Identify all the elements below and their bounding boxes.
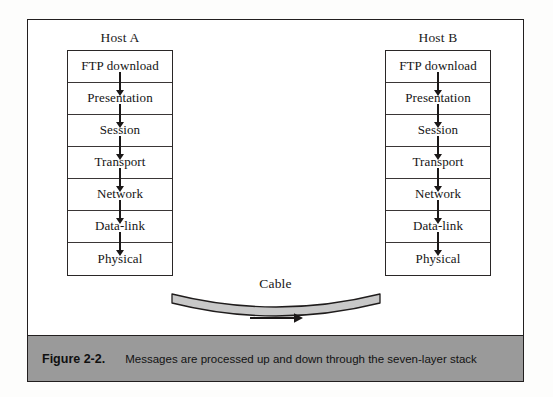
- diagram-canvas: Host A FTP download Presentation Session…: [28, 20, 523, 335]
- cable-label: Cable: [28, 276, 523, 292]
- figure-caption-text: Messages are processed up and down throu…: [125, 353, 477, 365]
- down-arrow-icon: [437, 72, 439, 91]
- down-arrow-icon: [119, 136, 121, 155]
- layer-label: FTP download: [81, 59, 159, 72]
- host-b-layer-ftp-download: FTP download: [386, 51, 490, 83]
- down-arrow-icon: [119, 200, 121, 219]
- host-a-layer-stack: FTP download Presentation Session Transp…: [67, 50, 173, 276]
- down-arrow-icon: [437, 200, 439, 219]
- figure-frame: Host A FTP download Presentation Session…: [27, 19, 524, 382]
- down-arrow-icon: [119, 104, 121, 123]
- host-b-column: Host B FTP download Presentation Session…: [385, 28, 491, 276]
- down-arrow-icon: [119, 72, 121, 91]
- host-a-layer-ftp-download: FTP download: [68, 51, 172, 83]
- down-arrow-icon: [119, 232, 121, 251]
- host-a-label: Host A: [67, 28, 173, 50]
- down-arrow-icon: [119, 168, 121, 187]
- down-arrow-icon: [437, 168, 439, 187]
- figure-number: Figure 2-2.: [42, 352, 105, 366]
- host-b-label: Host B: [385, 28, 491, 50]
- down-arrow-icon: [437, 136, 439, 155]
- down-arrow-icon: [437, 232, 439, 251]
- down-arrow-icon: [437, 104, 439, 123]
- figure-caption-bar: Figure 2-2. Messages are processed up an…: [28, 335, 523, 381]
- host-b-layer-stack: FTP download Presentation Session Transp…: [385, 50, 491, 276]
- cable-direction-arrow-icon: [250, 313, 303, 323]
- host-a-column: Host A FTP download Presentation Session…: [67, 28, 173, 276]
- cable-band: [172, 294, 380, 316]
- layer-label: FTP download: [399, 59, 477, 72]
